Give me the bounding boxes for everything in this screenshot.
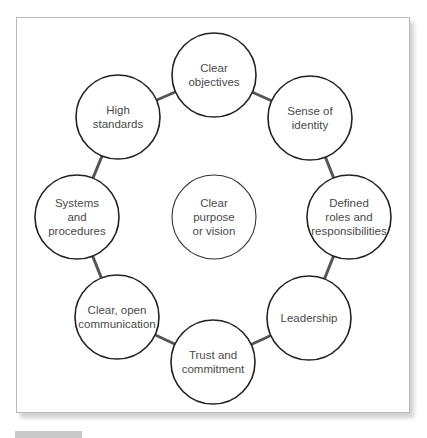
- node-high-standards-label: High standards: [76, 75, 160, 159]
- node-sense-of-identity-label: Sense of identity: [268, 76, 352, 160]
- node-clear-open-communication-label: Clear, open communication: [75, 275, 159, 359]
- node-leadership-label: Leadership: [267, 276, 351, 360]
- node-trust-and-commitment-label: Trust and commitment: [171, 320, 255, 404]
- center-node-label: Clear purpose or vision: [172, 175, 256, 259]
- node-defined-roles-label: Defined roles and responsibilities: [307, 175, 391, 259]
- node-systems-and-procedures-label: Systems and procedures: [35, 175, 119, 259]
- node-clear-objectives-label: Clear objectives: [172, 33, 256, 117]
- figure-caption-box: [15, 431, 82, 438]
